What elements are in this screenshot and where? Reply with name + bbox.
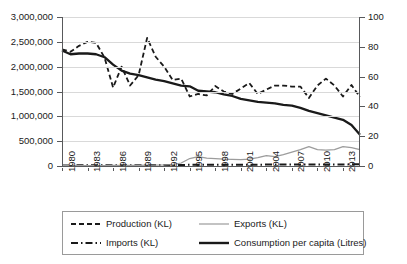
x-tick bbox=[266, 168, 267, 171]
y-tick-label-right: 100 bbox=[368, 12, 384, 22]
dashed-line-swatch bbox=[71, 220, 101, 228]
legend-label-imports: Imports (KL) bbox=[106, 237, 158, 248]
y-tick-label-left: 2,500,000 bbox=[0, 37, 53, 47]
gridline bbox=[62, 17, 360, 18]
x-tick-label: 1992 bbox=[169, 151, 179, 172]
y-tick-label-left: 3,000,000 bbox=[0, 12, 53, 22]
series-line-production bbox=[62, 38, 360, 98]
series-line-exports bbox=[62, 147, 360, 166]
thick-black-line-swatch bbox=[199, 239, 229, 247]
legend-label-exports: Exports (KL) bbox=[234, 218, 287, 229]
x-tick bbox=[164, 168, 165, 171]
plot-area bbox=[62, 17, 360, 166]
x-tick-label: 1995 bbox=[194, 151, 204, 172]
axis-line-right bbox=[359, 17, 360, 167]
y-tick-right bbox=[360, 106, 365, 107]
thin-gray-line-swatch bbox=[199, 220, 229, 228]
x-tick bbox=[343, 168, 344, 171]
y-tick-label-right: 80 bbox=[368, 42, 379, 52]
legend-item-consumption[interactable]: Consumption per capita (Litres) bbox=[199, 237, 367, 248]
chart-legend: Production (KL) Exports (KL) Imports (KL… bbox=[62, 211, 364, 255]
y-tick-label-left: 1,000,000 bbox=[0, 111, 53, 121]
gridline bbox=[62, 141, 360, 142]
gridline bbox=[62, 92, 360, 93]
x-tick-label: 1986 bbox=[118, 151, 128, 172]
y-tick-label-right: 40 bbox=[368, 101, 379, 111]
axis-line-left bbox=[62, 17, 63, 167]
y-tick-label-left: 1,500,000 bbox=[0, 87, 53, 97]
legend-label-consumption: Consumption per capita (Litres) bbox=[234, 237, 367, 248]
y-tick-label-left: 500,000 bbox=[0, 136, 53, 146]
x-tick bbox=[62, 168, 63, 171]
y-tick-right bbox=[360, 77, 365, 78]
legend-item-production[interactable]: Production (KL) bbox=[71, 218, 199, 229]
legend-label-production: Production (KL) bbox=[106, 218, 172, 229]
x-tick bbox=[292, 168, 293, 171]
x-tick-label: 1989 bbox=[143, 151, 153, 172]
x-tick-label: 1980 bbox=[67, 151, 77, 172]
x-tick-label: 2013 bbox=[347, 151, 357, 172]
x-tick-label: 2004 bbox=[271, 151, 281, 172]
gridline bbox=[62, 67, 360, 68]
x-tick bbox=[113, 168, 114, 171]
gridline bbox=[62, 42, 360, 43]
x-tick-label: 2010 bbox=[322, 151, 332, 172]
y-tick-label-left: 0 bbox=[0, 161, 53, 171]
x-tick bbox=[215, 168, 216, 171]
y-tick-right bbox=[360, 17, 365, 18]
x-tick-label: 2001 bbox=[245, 151, 255, 172]
y-tick-label-right: 60 bbox=[368, 72, 379, 82]
y-tick-label-right: 0 bbox=[368, 161, 373, 171]
gridline bbox=[62, 116, 360, 117]
x-tick bbox=[190, 168, 191, 171]
legend-item-imports[interactable]: Imports (KL) bbox=[71, 237, 199, 248]
x-tick-label: 1983 bbox=[92, 151, 102, 172]
legend-item-exports[interactable]: Exports (KL) bbox=[199, 218, 367, 229]
x-tick bbox=[88, 168, 89, 171]
axis-line-bottom bbox=[62, 166, 360, 167]
x-tick-label: 1998 bbox=[220, 151, 230, 172]
y-tick-right bbox=[360, 136, 365, 137]
x-tick-label: 2007 bbox=[296, 151, 306, 172]
x-axis-labels: 1980198319861989199219951998200120042007… bbox=[62, 168, 360, 208]
y-tick-label-left: 2,000,000 bbox=[0, 62, 53, 72]
x-tick bbox=[139, 168, 140, 171]
y-tick-label-right: 20 bbox=[368, 131, 379, 141]
y-tick-right bbox=[360, 47, 365, 48]
x-tick bbox=[317, 168, 318, 171]
dashdot-line-swatch bbox=[71, 239, 101, 247]
chart-figure: 0500,0001,000,0001,500,0002,000,0002,500… bbox=[0, 0, 407, 264]
x-tick bbox=[241, 168, 242, 171]
y-tick-right bbox=[360, 166, 365, 167]
